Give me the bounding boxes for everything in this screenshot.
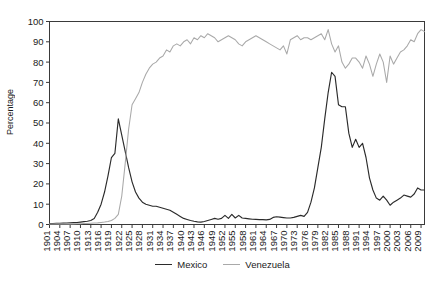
y-tick-label: 50	[33, 117, 44, 128]
y-tick-label: 60	[33, 97, 44, 108]
y-tick-label: 40	[33, 138, 44, 149]
legend-entry-mexico: Mexico	[155, 259, 207, 270]
y-tick-label: 30	[33, 158, 44, 169]
x-axis-ticks: 1901190419071910191319161919192219251928…	[41, 225, 424, 252]
chart-plot-area: 0102030405060708090100 19011904190719101…	[0, 0, 445, 282]
chart-figure: Percentage 0102030405060708090100 190119…	[0, 0, 445, 282]
y-tick-label: 70	[33, 77, 44, 88]
data-series-group	[50, 30, 425, 224]
legend-label: Venezuela	[245, 259, 289, 270]
legend-swatch-icon	[155, 264, 172, 265]
y-tick-label: 10	[33, 199, 44, 210]
chart-legend: MexicoVenezuela	[0, 259, 445, 270]
series-line-mexico	[50, 72, 425, 223]
y-axis-ticks: 0102030405060708090100	[28, 16, 50, 230]
y-tick-label: 20	[33, 178, 44, 189]
legend-label: Mexico	[177, 259, 207, 270]
series-line-venezuela	[50, 30, 425, 224]
legend-entry-venezuela: Venezuela	[223, 259, 289, 270]
plot-border	[50, 22, 425, 225]
y-tick-label: 100	[28, 16, 44, 27]
axis-frame	[50, 22, 425, 225]
y-tick-label: 90	[33, 36, 44, 47]
legend-swatch-icon	[223, 264, 240, 265]
y-tick-label: 0	[38, 219, 43, 230]
y-tick-label: 80	[33, 57, 44, 68]
x-tick-label: 2009	[412, 231, 423, 252]
